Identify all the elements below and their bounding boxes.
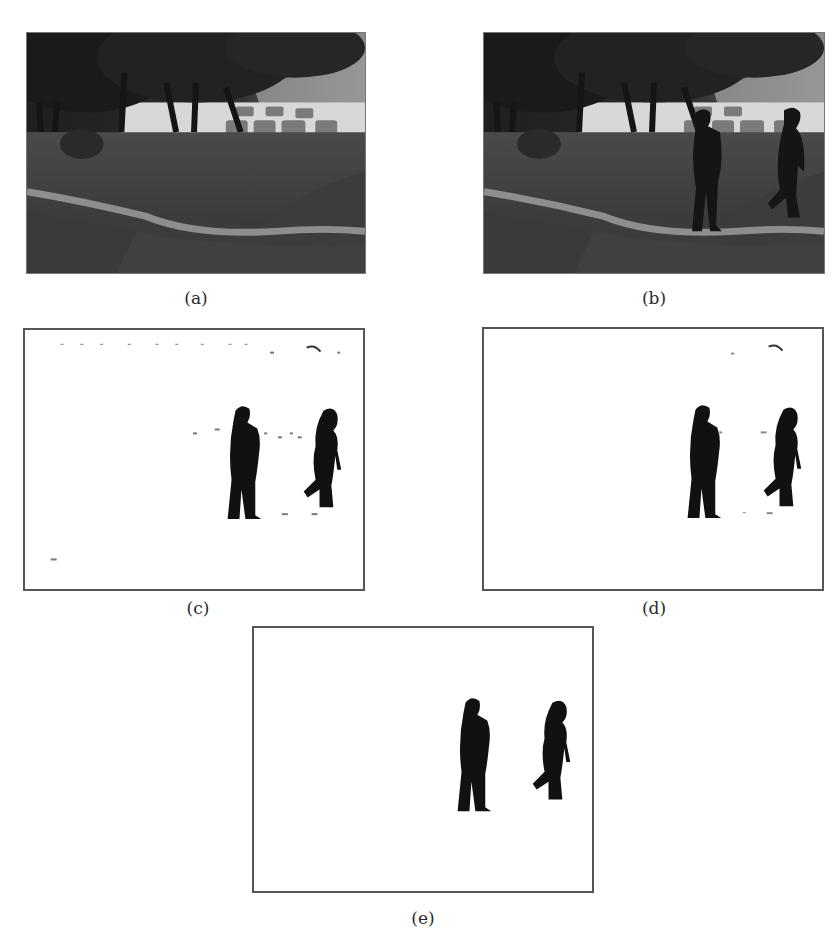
mask-image [25, 330, 363, 589]
person-silhouettes [688, 405, 802, 518]
panel-b-label: (b) [624, 288, 684, 308]
panel-b-frame-photo [483, 32, 825, 274]
panel-c-label: (c) [168, 598, 228, 618]
person-silhouettes [228, 406, 342, 519]
panel-d-label: (d) [624, 598, 684, 618]
mask-image [484, 329, 822, 589]
panel-c-noisy-mask [23, 328, 365, 591]
person-silhouettes [458, 698, 571, 811]
panel-d-filtered-mask [482, 327, 824, 591]
noise-specks [51, 344, 341, 561]
mask-image [254, 628, 592, 891]
panel-a-background-photo [26, 32, 366, 274]
panel-e-final-silhouettes [252, 626, 594, 893]
scene-image [484, 33, 824, 273]
panel-a-label: (a) [166, 288, 226, 308]
scene-image [27, 33, 365, 273]
panel-e-label: (e) [393, 908, 453, 928]
